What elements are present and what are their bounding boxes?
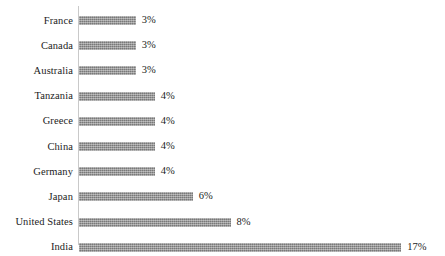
- bar: [79, 16, 136, 25]
- value-label: 4%: [161, 90, 175, 102]
- bar-row: India17%: [0, 235, 445, 256]
- category-label: China: [0, 141, 73, 153]
- value-label: 4%: [161, 165, 175, 177]
- value-label: 4%: [161, 115, 175, 127]
- bar-row: Tanzania4%: [0, 84, 445, 109]
- category-label: Japan: [0, 191, 73, 203]
- category-label: India: [0, 241, 73, 253]
- bar-row: Germany4%: [0, 159, 445, 184]
- bar: [79, 41, 136, 50]
- category-label: Greece: [0, 115, 73, 127]
- value-label: 3%: [142, 64, 156, 76]
- category-label: France: [0, 15, 73, 27]
- bar-row: United States8%: [0, 210, 445, 235]
- value-label: 8%: [237, 216, 251, 228]
- category-label: Germany: [0, 166, 73, 178]
- bar-row: China4%: [0, 134, 445, 159]
- value-label: 4%: [161, 140, 175, 152]
- bar: [79, 192, 193, 201]
- bar-row: Australia3%: [0, 58, 445, 83]
- category-label: Australia: [0, 65, 73, 77]
- bar-row: France3%: [0, 8, 445, 33]
- category-label: United States: [0, 216, 73, 228]
- category-label: Canada: [0, 40, 73, 52]
- bar: [79, 243, 401, 252]
- value-label: 6%: [199, 190, 213, 202]
- bar-row: Canada3%: [0, 33, 445, 58]
- value-label: 17%: [407, 241, 426, 253]
- value-label: 3%: [142, 14, 156, 26]
- bar: [79, 167, 155, 176]
- bar: [79, 142, 155, 151]
- bar-row: Greece4%: [0, 109, 445, 134]
- value-label: 3%: [142, 39, 156, 51]
- category-label: Tanzania: [0, 90, 73, 102]
- bar: [79, 117, 155, 126]
- bar: [79, 92, 155, 101]
- bar: [79, 66, 136, 75]
- bar-row: Japan6%: [0, 184, 445, 209]
- bar: [79, 218, 231, 227]
